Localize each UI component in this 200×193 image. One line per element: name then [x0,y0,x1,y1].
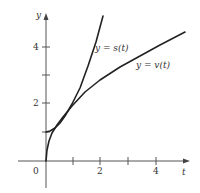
chart: y t 0 2 4 4 2 y = s(t) y = v(t) [0,0,200,193]
y-tick-label-4: 4 [33,42,39,52]
s-curve-label: y = s(t) [94,43,129,53]
y-axis-label: y [35,10,42,20]
y-tick-label-2: 2 [33,98,39,108]
v-curve-label: y = v(t) [135,60,171,70]
x-axis-arrow-icon [183,159,190,164]
s-curve [46,16,103,132]
x-axis-label: t [182,167,186,177]
origin-label: 0 [33,166,39,176]
y-axis-arrow-icon [44,13,49,20]
x-tick-label-2: 2 [97,166,103,176]
x-tick-label-4: 4 [153,166,159,176]
